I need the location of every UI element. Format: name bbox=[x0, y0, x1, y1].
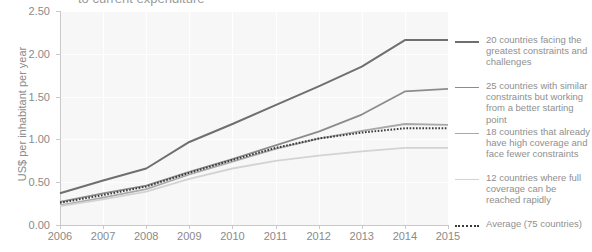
x-tick-label: 2012 bbox=[297, 230, 341, 242]
x-tick-label: 2007 bbox=[81, 230, 125, 242]
chart-title-clipped: to current expenditure bbox=[78, 0, 378, 7]
legend-label: 25 countries with similar constraints bu… bbox=[486, 80, 592, 125]
x-tick-mark bbox=[405, 225, 406, 229]
legend-label: Average (75 countries) bbox=[486, 218, 592, 229]
x-tick-mark bbox=[189, 225, 190, 229]
x-tick-label: 2014 bbox=[383, 230, 427, 242]
y-tick-label: 2.50 bbox=[4, 6, 50, 16]
x-tick-label: 2011 bbox=[254, 230, 298, 242]
series-lines bbox=[60, 11, 448, 225]
legend-label: 12 countries where full coverage can be … bbox=[486, 172, 592, 206]
x-tick-mark bbox=[103, 225, 104, 229]
y-tick-label: 1.00 bbox=[4, 134, 50, 144]
x-axis-line bbox=[60, 225, 449, 226]
legend-label: 20 countries facing the greatest constra… bbox=[486, 34, 592, 68]
gridline-vertical bbox=[448, 11, 449, 225]
y-tick-label: 2.00 bbox=[4, 49, 50, 59]
x-tick-mark bbox=[448, 225, 449, 229]
x-tick-mark bbox=[319, 225, 320, 229]
x-tick-label: 2015 bbox=[426, 230, 470, 242]
legend-swatch-line-icon bbox=[455, 87, 479, 88]
x-tick-mark bbox=[232, 225, 233, 229]
chart-root: to current expenditure US$ per inhabitan… bbox=[0, 0, 592, 252]
legend-swatch-line-icon bbox=[455, 41, 479, 43]
x-tick-label: 2009 bbox=[167, 230, 211, 242]
y-tick-label: 0.50 bbox=[4, 177, 50, 187]
legend-swatch-line-icon bbox=[455, 179, 479, 180]
y-tick-label: 1.50 bbox=[4, 92, 50, 102]
legend-swatch-line-icon bbox=[455, 133, 479, 134]
x-tick-label: 2013 bbox=[340, 230, 384, 242]
x-tick-mark bbox=[60, 225, 61, 229]
legend-swatch-line-icon bbox=[455, 225, 479, 227]
x-tick-mark bbox=[362, 225, 363, 229]
y-tick-label: 0.00 bbox=[4, 220, 50, 230]
series-line-1 bbox=[60, 40, 448, 193]
x-tick-mark bbox=[276, 225, 277, 229]
y-axis-title: US$ per inhabitant per year bbox=[16, 4, 28, 224]
series-line-2 bbox=[60, 89, 448, 202]
legend-label: 18 countries that already have high cove… bbox=[486, 126, 592, 160]
x-tick-label: 2006 bbox=[38, 230, 82, 242]
x-tick-label: 2008 bbox=[124, 230, 168, 242]
x-tick-label: 2010 bbox=[210, 230, 254, 242]
x-tick-mark bbox=[146, 225, 147, 229]
